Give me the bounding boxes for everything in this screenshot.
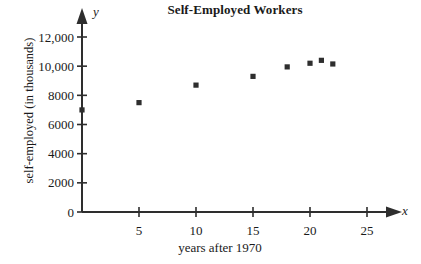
data-point-marker bbox=[285, 64, 290, 69]
y-tick-label: 4000 bbox=[2, 147, 74, 160]
x-tick-label: 5 bbox=[119, 224, 159, 237]
x-tick-label: 25 bbox=[347, 224, 387, 237]
data-point-marker bbox=[330, 61, 335, 66]
y-tick-label: 0 bbox=[2, 206, 74, 219]
tick-marks-group bbox=[77, 37, 367, 217]
data-point-marker bbox=[307, 61, 312, 66]
axes-group bbox=[77, 8, 403, 218]
data-point-marker bbox=[136, 100, 141, 105]
data-point-marker bbox=[319, 58, 324, 63]
chart-figure: Self-Employed Workers self-employed (in … bbox=[0, 0, 421, 264]
y-tick-label: 6000 bbox=[2, 118, 74, 131]
data-markers-group bbox=[79, 58, 335, 113]
data-point-marker bbox=[250, 74, 255, 79]
y-tick-label: 10,000 bbox=[2, 60, 74, 73]
data-point-marker bbox=[79, 107, 84, 112]
x-tick-label: 20 bbox=[290, 224, 330, 237]
y-axis-arrowhead bbox=[77, 8, 88, 24]
x-axis-arrowhead bbox=[386, 207, 402, 218]
x-tick-label: 10 bbox=[176, 224, 216, 237]
data-point-marker bbox=[193, 83, 198, 88]
y-tick-label: 2000 bbox=[2, 176, 74, 189]
x-tick-label: 15 bbox=[233, 224, 273, 237]
y-tick-label: 8000 bbox=[2, 89, 74, 102]
y-tick-label: 12,000 bbox=[2, 31, 74, 44]
